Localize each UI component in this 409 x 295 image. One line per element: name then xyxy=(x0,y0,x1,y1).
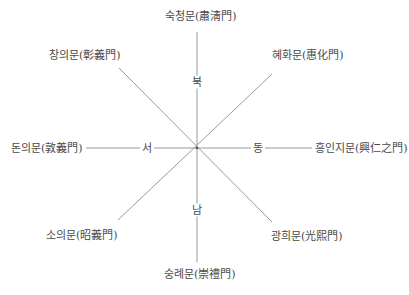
center-point xyxy=(196,147,199,150)
gate-northwest-label: 창의문(彰義門) xyxy=(48,49,122,62)
direction-west: 서 xyxy=(140,142,154,155)
gate-southwest-label: 소의문(昭義門) xyxy=(45,229,119,242)
direction-east: 동 xyxy=(251,142,265,155)
gate-south-label: 숭례문(崇禮門) xyxy=(163,268,237,281)
gate-west-label: 돈의문(敦義門) xyxy=(10,142,84,155)
gate-northeast-label: 혜화문(惠化門) xyxy=(271,49,345,62)
direction-south: 남 xyxy=(190,204,204,217)
gate-east-label: 흥인지문(興仁之門) xyxy=(314,142,409,155)
gate-north-label: 숙청문(肅淸門) xyxy=(164,10,238,23)
direction-north: 북 xyxy=(190,76,204,89)
gate-southeast-label: 광희문(光熙門) xyxy=(270,230,344,243)
eight-gates-compass-diagram: 북 남 서 동 숙청문(肅淸門) 창의문(彰義門) 혜화문(惠化門) 돈의문(敦… xyxy=(0,0,409,295)
